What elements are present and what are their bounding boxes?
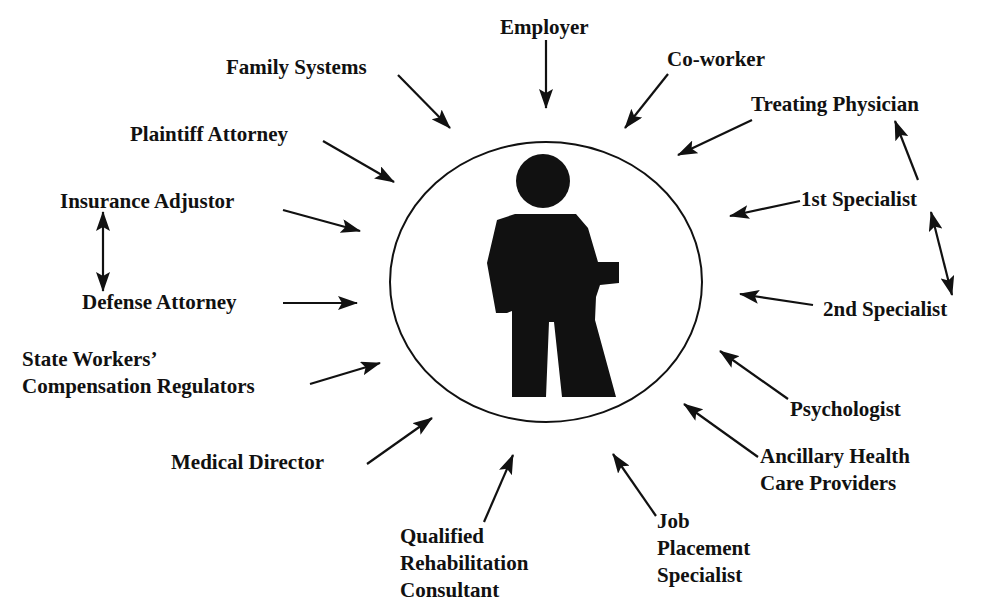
arrow-first-to-treating [895,121,918,180]
arrow-treating-physician [678,120,752,155]
arrow-plaintiff-attorney [323,141,394,182]
arrow-insurance-adjustor [283,210,360,231]
label-defense-attorney: Defense Attorney [82,289,237,316]
label-medical-director: Medical Director [171,449,324,476]
arrow-first-second-double [931,212,952,295]
label-family-systems: Family Systems [226,54,367,81]
label-second-specialist: 2nd Specialist [823,296,947,323]
label-first-specialist: 1st Specialist [801,186,917,213]
arrow-second-specialist [740,294,813,305]
label-plaintiff-attorney: Plaintiff Attorney [130,121,288,148]
label-treating-physician: Treating Physician [751,91,919,118]
arrow-coworker [625,74,668,128]
arrow-job-placement [613,454,656,516]
arrow-qualified-rehab [484,455,513,522]
person-icon [487,154,619,397]
arrow-state-workers [310,363,380,384]
arrow-first-specialist [730,201,800,216]
label-coworker: Co-worker [667,46,765,73]
arrow-family-systems [398,75,450,128]
label-insurance-adjustor: Insurance Adjustor [60,188,234,215]
label-job-placement: Job Placement Specialist [657,508,750,589]
label-ancillary: Ancillary Health Care Providers [760,443,910,497]
arrow-psychologist [720,351,788,399]
arrow-medical-director [367,418,432,464]
label-state-workers: State Workers’ Compensation Regulators [22,346,255,400]
label-psychologist: Psychologist [790,396,901,423]
arrow-ancillary [684,404,758,457]
label-qualified-rehab: Qualified Rehabilitation Consultant [400,523,528,604]
stakeholder-diagram: Employer Co-worker Treating Physician 1s… [0,0,992,615]
label-employer: Employer [500,14,589,41]
